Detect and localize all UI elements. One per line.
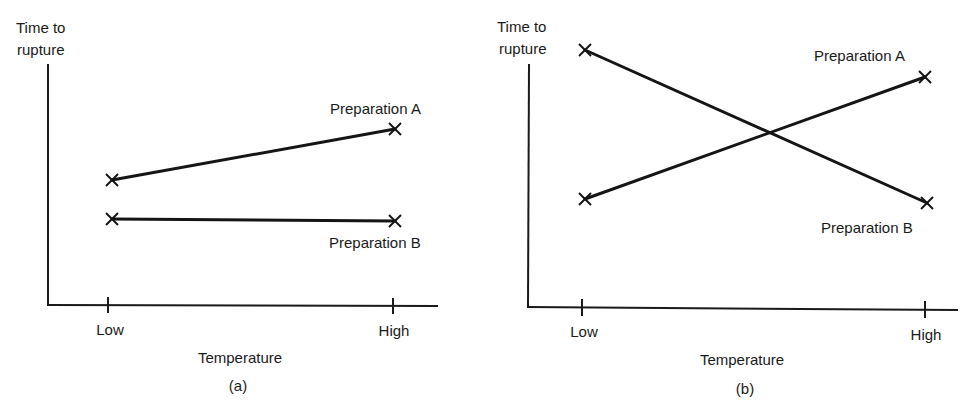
x-axis — [47, 305, 438, 306]
series-label-preparation-b: Preparation B — [329, 234, 421, 251]
y-axis-label-line2: rupture — [17, 41, 65, 58]
figure: Time to rupture Low High Temperature (a)… — [0, 0, 977, 416]
x-axis-label: Temperature — [700, 351, 784, 368]
series-preparation-b — [579, 44, 933, 209]
y-axis-label-line2: rupture — [499, 40, 547, 57]
y-axis-label-line1: Time to — [497, 18, 546, 35]
chart-panel-a: Time to rupture Low High Temperature (a)… — [16, 19, 438, 394]
chart-panel-b: Time to rupture Low High Temperature (b)… — [497, 18, 958, 397]
y-axis — [528, 64, 529, 307]
series-label-preparation-a: Preparation A — [330, 100, 421, 117]
x-tick-label-high: High — [911, 326, 942, 343]
x-tick-label-low: Low — [96, 321, 124, 338]
y-axis-label-line1: Time to — [16, 19, 65, 36]
series-label-preparation-b: Preparation B — [821, 219, 913, 236]
panel-caption: (a) — [229, 377, 247, 394]
x-tick-label-low: Low — [570, 323, 598, 340]
x-marker-icon — [579, 44, 591, 56]
series-preparation-a — [106, 123, 401, 186]
series-preparation-a — [579, 71, 931, 205]
series-preparation-b — [106, 213, 401, 227]
x-marker-icon — [921, 197, 933, 209]
series-label-preparation-a: Preparation A — [814, 47, 905, 64]
panel-caption: (b) — [736, 380, 754, 397]
x-axis-label: Temperature — [198, 349, 282, 366]
x-tick-label-high: High — [379, 322, 410, 339]
x-axis — [527, 307, 958, 310]
